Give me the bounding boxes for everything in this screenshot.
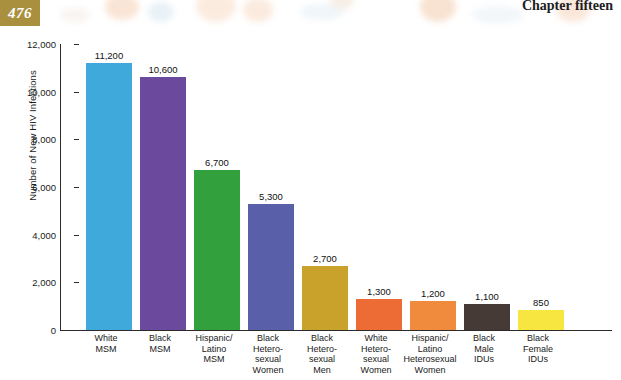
bar-group: 5,300 — [244, 44, 298, 330]
x-axis-label-line: Black — [508, 333, 568, 344]
x-axis-label-line: IDUs — [508, 354, 568, 365]
x-axis-tick-label: BlackFemaleIDUs — [508, 333, 568, 365]
bar-group: 850 — [514, 44, 568, 330]
x-axis-label-line: Black — [130, 333, 190, 344]
y-axis-tick-label: 2,000 — [32, 277, 56, 288]
bar[interactable] — [410, 301, 456, 330]
x-axis-tick-label: BlackMSM — [130, 333, 190, 354]
x-axis-tick-label: BlackHetero-sexualWomen — [238, 333, 298, 375]
bar-value-label: 850 — [514, 297, 568, 308]
y-axis-tick-label: 6,000 — [32, 182, 56, 193]
x-axis-line — [60, 330, 612, 331]
x-axis-tick-label: WhiteMSM — [76, 333, 136, 354]
x-axis-tick-label: BlackHetero-sexualMen — [292, 333, 352, 375]
x-axis-tick-label: Hispanic/LatinoMSM — [184, 333, 244, 365]
x-axis-label-line: Black — [238, 333, 298, 344]
x-axis-label-line: Women — [238, 365, 298, 376]
bar-value-label: 1,300 — [352, 286, 406, 297]
x-axis-label-line: MSM — [184, 354, 244, 365]
bar[interactable] — [194, 170, 240, 330]
bar-group: 11,200 — [82, 44, 136, 330]
decorative-blob — [196, 0, 236, 22]
bar[interactable] — [140, 77, 186, 330]
bar-value-label: 5,300 — [244, 191, 298, 202]
bar-value-label: 1,100 — [460, 291, 514, 302]
x-axis-label-line: Female — [508, 344, 568, 355]
x-axis-label-line: Hetero- — [238, 344, 298, 355]
decorative-blob — [148, 2, 174, 22]
bar[interactable] — [464, 304, 510, 330]
chapter-title: Chapter fifteen — [522, 0, 613, 14]
bar-value-label: 10,600 — [136, 64, 190, 75]
x-axis-label-line: Women — [391, 365, 469, 376]
bar-group: 1,200 — [406, 44, 460, 330]
bar-group: 6,700 — [190, 44, 244, 330]
bar-value-label: 1,200 — [406, 288, 460, 299]
bar[interactable] — [248, 204, 294, 330]
bar-group: 1,100 — [460, 44, 514, 330]
bar-chart: Number of New HIV Infections 12,00010,00… — [0, 34, 621, 380]
bar-value-label: 11,200 — [82, 50, 136, 61]
decorative-blob — [243, 0, 273, 22]
decorative-blob — [105, 0, 139, 20]
x-axis-label-line: Male — [454, 344, 514, 355]
x-axis-label-line: Black — [454, 333, 514, 344]
page-header-band: 476 Chapter fifteen — [0, 0, 621, 34]
y-axis-tick-label: 0 — [51, 325, 56, 336]
x-axis-label-line: Black — [292, 333, 352, 344]
x-axis-label-line: White — [76, 333, 136, 344]
plot-area: 11,20010,6006,7005,3002,7001,3001,2001,1… — [61, 44, 613, 330]
y-axis-tick-label: 4,000 — [32, 229, 56, 240]
decorative-blob — [60, 8, 90, 22]
x-axis-label-line: IDUs — [454, 354, 514, 365]
bar[interactable] — [86, 63, 132, 330]
x-axis-label-line: sexual — [292, 354, 352, 365]
bar[interactable] — [302, 266, 348, 330]
x-axis-label-line: MSM — [76, 344, 136, 355]
x-axis-label-line: Men — [292, 365, 352, 376]
bar-group: 2,700 — [298, 44, 352, 330]
y-axis-tick-label: 8,000 — [32, 134, 56, 145]
x-axis-label-line: Latino — [184, 344, 244, 355]
bar[interactable] — [356, 299, 402, 330]
bar-value-label: 6,700 — [190, 157, 244, 168]
y-axis-tick-label: 12,000 — [27, 39, 56, 50]
x-axis-label-line: sexual — [238, 354, 298, 365]
x-axis-tick-label: BlackMaleIDUs — [454, 333, 514, 365]
decorative-blob — [420, 0, 456, 22]
x-axis-label-line: MSM — [130, 344, 190, 355]
x-axis-tick-labels: WhiteMSMBlackMSMHispanic/LatinoMSMBlackH… — [61, 333, 613, 380]
y-axis-tick-label: 10,000 — [27, 86, 56, 97]
bar[interactable] — [518, 310, 564, 330]
bar-value-label: 2,700 — [298, 253, 352, 264]
bar-group: 10,600 — [136, 44, 190, 330]
bar-group: 1,300 — [352, 44, 406, 330]
y-axis-tick-labels: 12,00010,0008,0006,0004,0002,0000 — [14, 34, 60, 334]
decorative-blob — [472, 6, 524, 24]
x-axis-label-line: Hetero- — [292, 344, 352, 355]
x-axis-label-line: Hispanic/ — [184, 333, 244, 344]
